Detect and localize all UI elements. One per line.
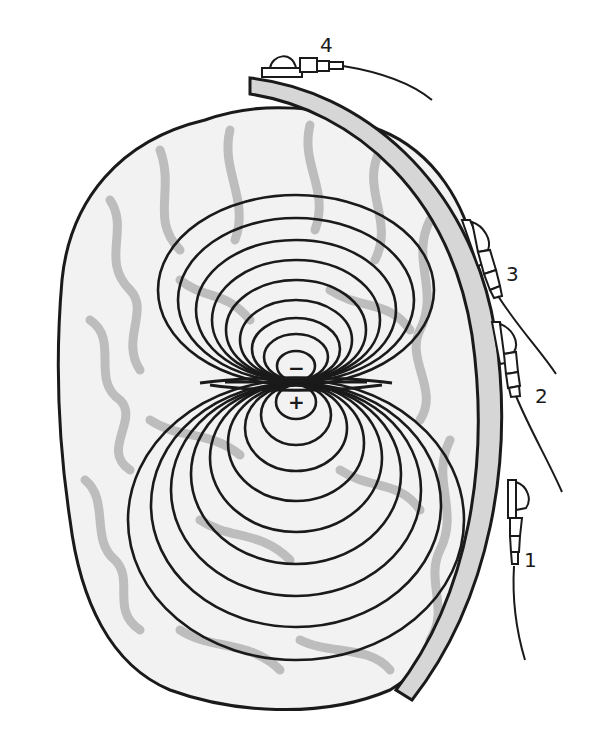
electrode-4-label: 4 xyxy=(320,33,333,57)
electrode-1-label: 1 xyxy=(524,548,537,572)
positive-pole-label: + xyxy=(288,390,305,414)
negative-pole-label: − xyxy=(288,356,305,380)
electrode-3-label: 3 xyxy=(506,262,519,286)
electrode-2-label: 2 xyxy=(535,384,548,408)
